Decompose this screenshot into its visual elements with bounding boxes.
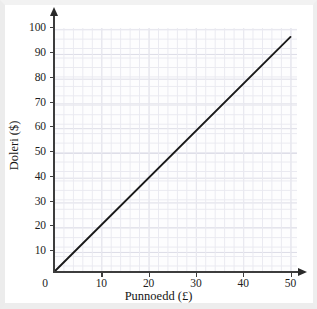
x-axis-arrow-icon bbox=[298, 268, 307, 276]
y-tick-60 bbox=[50, 126, 55, 127]
y-tick-70 bbox=[50, 102, 55, 103]
x-tick-label-50: 50 bbox=[285, 277, 296, 289]
x-axis-title: Punnoedd (£) bbox=[0, 289, 317, 304]
x-tick-label-0: 0 bbox=[42, 277, 48, 289]
y-tick-20 bbox=[50, 225, 55, 226]
y-axis-arrow-icon bbox=[50, 7, 58, 16]
y-tick-50 bbox=[50, 151, 55, 152]
y-axis-title: Doleri ($) bbox=[7, 86, 22, 206]
y-tick-40 bbox=[50, 176, 55, 177]
y-tick-label-20: 20 bbox=[6, 219, 46, 231]
y-tick-label-10: 10 bbox=[6, 244, 46, 256]
y-tick-100 bbox=[50, 27, 55, 28]
y-tick-label-100: 100 bbox=[6, 21, 46, 33]
x-tick-label-40: 40 bbox=[238, 277, 249, 289]
line-chart: 100 90 80 70 60 50 40 30 20 10 0 10 20 3… bbox=[0, 0, 317, 309]
x-tick-label-10: 10 bbox=[96, 277, 107, 289]
y-tick-label-80: 80 bbox=[6, 71, 46, 83]
chart-screenshot: 100 90 80 70 60 50 40 30 20 10 0 10 20 3… bbox=[0, 0, 317, 309]
data-line-svg bbox=[0, 0, 317, 309]
y-tick-30 bbox=[50, 201, 55, 202]
y-tick-80 bbox=[50, 77, 55, 78]
x-tick-label-30: 30 bbox=[190, 277, 201, 289]
x-axis-line bbox=[53, 271, 301, 273]
conversion-line bbox=[54, 37, 291, 272]
y-tick-90 bbox=[50, 52, 55, 53]
y-tick-label-90: 90 bbox=[6, 46, 46, 58]
y-tick-10 bbox=[50, 250, 55, 251]
x-tick-label-20: 20 bbox=[143, 277, 154, 289]
